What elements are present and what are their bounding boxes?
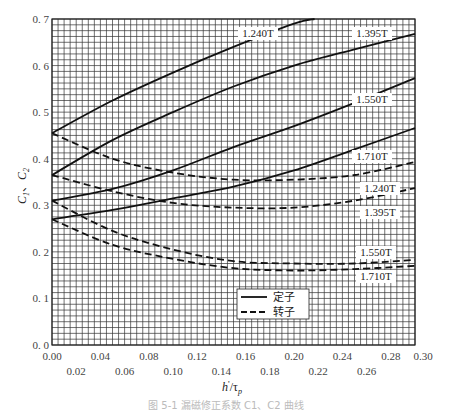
curve-label: 1.710T [360, 270, 392, 282]
x-tick-label: 0.02 [67, 365, 86, 377]
y-tick-label: 0. 6 [33, 60, 50, 72]
x-tick-label: 0.28 [381, 350, 401, 362]
curve-label: 1.240T [242, 27, 274, 39]
x-tick-label: 0.04 [91, 350, 111, 362]
y-tick-labels: 0. 00. 10. 20. 30. 40. 50. 60. 7 [33, 13, 50, 351]
x-tick-label: 0.24 [333, 350, 353, 362]
curve-label: 1.395T [356, 27, 388, 39]
x-tick-label: 0.26 [357, 365, 377, 377]
x-tick-label: 0.14 [212, 365, 232, 377]
x-tick-label: 0.20 [284, 350, 304, 362]
curve-label: 1.710T [356, 150, 388, 162]
x-tick-label: 0.30 [413, 350, 433, 362]
y-tick-label: 0. 4 [33, 153, 50, 165]
x-tick-label: 0.10 [163, 365, 183, 377]
x-tick-label: 0.06 [115, 365, 135, 377]
x-tick-label: 0.18 [260, 365, 280, 377]
y-tick-label: 0. 7 [33, 13, 50, 25]
y-tick-label: 0. 5 [33, 106, 50, 118]
x-tick-labels: 0.000.040.080.120.160.200.240.280.300.02… [42, 350, 433, 377]
x-tick-label: 0.22 [309, 365, 328, 377]
legend: 定子 转子 [237, 289, 309, 319]
y-axis-label: C1、C2 [15, 168, 31, 204]
chart: 1.240T1.395T1.550T1.710T1.240T1.395T1.55… [0, 0, 452, 411]
legend-label-rotor: 转子 [273, 305, 295, 319]
y-tick-label: 0. 2 [33, 246, 50, 258]
x-axis-label: h'/τp [222, 379, 242, 396]
curve-label: 1.395T [364, 206, 396, 218]
legend-label-stator: 定子 [273, 290, 295, 304]
curve-label: 1.550T [360, 246, 392, 258]
x-tick-label: 0.16 [236, 350, 256, 362]
x-tick-label: 0.00 [42, 350, 62, 362]
curve-label: 1.550T [356, 93, 388, 105]
x-tick-label: 0.12 [188, 350, 207, 362]
y-tick-label: 0. 3 [33, 199, 50, 211]
y-tick-label: 0. 1 [33, 292, 50, 304]
curve-label: 1.240T [364, 182, 396, 194]
x-tick-label: 0.08 [139, 350, 159, 362]
figure-caption: 图 5-1 漏磁修正系数 C1、C2 曲线 [148, 399, 304, 411]
